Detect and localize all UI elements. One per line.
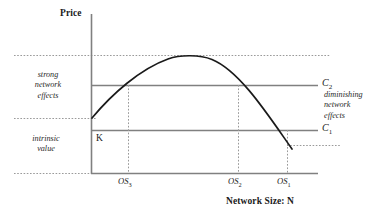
annotation-line: intrinsic bbox=[14, 134, 78, 144]
x-tick-label-os2-text: OS bbox=[228, 176, 239, 186]
x-tick-label-os2: OS2 bbox=[228, 176, 242, 189]
annotation-line: network bbox=[324, 100, 384, 110]
cost-line-label-c1: C1 bbox=[322, 122, 332, 137]
x-tick-label-os1: OS1 bbox=[277, 176, 291, 189]
x-tick-label-os3: OS3 bbox=[118, 176, 132, 189]
x-tick-label-os1-text: OS bbox=[277, 176, 288, 186]
network-value-curve bbox=[92, 56, 292, 149]
x-tick-label-os3-text: OS bbox=[118, 176, 129, 186]
cost-line-label-c1-text: C bbox=[322, 122, 329, 133]
network-effects-diagram: Price Network Size: N strong network eff… bbox=[0, 0, 385, 214]
annotation-line: value bbox=[14, 144, 78, 154]
x-tick-label-os1-subscript: 1 bbox=[288, 181, 291, 188]
x-tick-label-os2-subscript: 2 bbox=[239, 181, 242, 188]
x-axis-title: Network Size: N bbox=[226, 196, 294, 208]
annotation-line: network bbox=[14, 80, 82, 90]
intercept-label-k: K bbox=[96, 133, 103, 145]
cost-line-label-c2: C2 bbox=[322, 77, 332, 92]
y-axis-title: Price bbox=[60, 8, 82, 20]
x-tick-label-os3-subscript: 3 bbox=[129, 181, 132, 188]
annotation-intrinsic-value: intrinsic value bbox=[14, 134, 78, 155]
cost-line-label-c1-subscript: 1 bbox=[329, 128, 333, 136]
annotation-strong-network-effects: strong network effects bbox=[14, 70, 82, 101]
annotation-diminishing-network-effects: diminishing network effects bbox=[324, 90, 384, 121]
cost-line-label-c2-text: C bbox=[322, 77, 329, 88]
annotation-line: effects bbox=[324, 111, 384, 121]
annotation-line: strong bbox=[14, 70, 82, 80]
annotation-line: diminishing bbox=[324, 90, 384, 100]
annotation-line: effects bbox=[14, 91, 82, 101]
cost-line-label-c2-subscript: 2 bbox=[329, 83, 333, 91]
